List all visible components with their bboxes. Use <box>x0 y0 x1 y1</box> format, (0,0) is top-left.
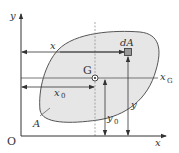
y-distance-label: y <box>130 99 137 110</box>
area-shape <box>40 31 159 122</box>
svg-text:y: y <box>106 112 113 123</box>
area-label: A <box>32 118 40 129</box>
xg-line-label: x G <box>160 71 173 85</box>
svg-text:x: x <box>54 87 60 98</box>
x-axis-label: x <box>155 137 161 148</box>
svg-text:0: 0 <box>61 92 65 100</box>
svg-text:x: x <box>160 71 166 82</box>
svg-text:G: G <box>167 77 173 85</box>
area-element-square <box>125 49 132 56</box>
x-distance-label: x <box>50 40 56 51</box>
element-label: dA <box>120 37 134 48</box>
y-axis-label: y <box>9 10 16 21</box>
svg-text:0: 0 <box>114 118 118 126</box>
origin-label: O <box>7 135 16 148</box>
centroid-marker-dot <box>94 77 96 79</box>
centroid-diagram: O y x G dA A x x 0 x G y y 0 <box>0 0 179 153</box>
centroid-label: G <box>83 64 92 77</box>
